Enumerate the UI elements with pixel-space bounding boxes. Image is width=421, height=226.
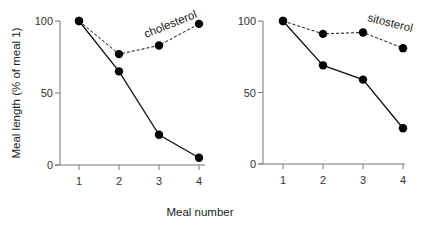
data-point <box>399 44 407 52</box>
x-axis-label: Meal number <box>166 206 233 218</box>
x-tick-label: 4 <box>400 174 406 186</box>
x-tick-label: 3 <box>156 175 162 187</box>
data-point <box>115 67 123 75</box>
data-point <box>155 41 163 49</box>
y-axis-label: Meal length (% of meal 1) <box>10 27 22 158</box>
data-point <box>155 131 163 139</box>
y-tick-label: 50 <box>41 87 53 99</box>
x-tick-label: 1 <box>280 174 286 186</box>
x-tick-label: 3 <box>360 174 366 186</box>
x-tick-label: 2 <box>320 174 326 186</box>
y-tick-label: 100 <box>35 15 53 27</box>
x-tick-label: 2 <box>116 175 122 187</box>
solid-series-line <box>283 21 403 128</box>
x-tick-label: 1 <box>76 175 82 187</box>
y-tick-label: 100 <box>238 15 256 27</box>
data-point <box>359 75 367 83</box>
figure: 050100 1234 cholesterol 050100 1234 sito… <box>0 0 421 226</box>
data-point <box>279 17 287 25</box>
right-annotation: sitosterol <box>367 11 415 34</box>
data-point <box>319 61 327 69</box>
y-tick-label: 0 <box>47 159 53 171</box>
data-point <box>359 28 367 36</box>
data-point <box>75 17 83 25</box>
y-tick-label: 0 <box>250 158 256 170</box>
data-point <box>195 20 203 28</box>
left-annotation: cholesterol <box>142 8 198 40</box>
data-point <box>115 50 123 58</box>
left-panel: 050100 1234 cholesterol <box>35 8 205 187</box>
data-point <box>195 154 203 162</box>
right-panel: 050100 1234 sitosterol <box>238 11 414 186</box>
data-point <box>319 30 327 38</box>
data-point <box>399 124 407 132</box>
y-tick-label: 50 <box>244 87 256 99</box>
x-tick-label: 4 <box>196 175 202 187</box>
solid-series-line <box>79 21 199 158</box>
